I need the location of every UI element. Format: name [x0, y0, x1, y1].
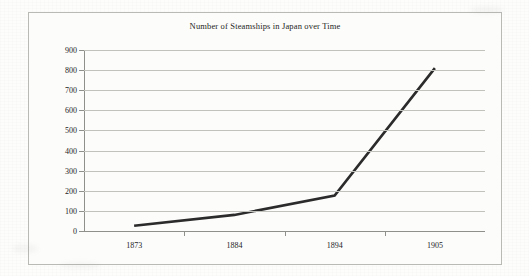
x-axis-label: 1894	[327, 241, 343, 250]
grid-line	[84, 211, 485, 212]
y-axis-tick	[79, 50, 84, 51]
grid-line	[84, 90, 485, 91]
y-axis-label: 800	[65, 66, 77, 75]
y-axis-label: 400	[65, 146, 77, 155]
y-axis-label: 900	[65, 46, 77, 55]
grid-line	[84, 151, 485, 152]
y-axis-tick	[79, 231, 84, 232]
y-axis-tick	[79, 130, 84, 131]
y-axis-tick	[79, 90, 84, 91]
x-axis-label: 1905	[427, 241, 443, 250]
y-axis-tick	[79, 211, 84, 212]
y-axis-label: 100	[65, 206, 77, 215]
x-axis-tick	[385, 231, 386, 236]
grid-line	[84, 110, 485, 111]
y-axis-label: 300	[65, 166, 77, 175]
y-axis-tick	[79, 110, 84, 111]
grid-line	[84, 171, 485, 172]
y-axis-tick	[79, 151, 84, 152]
y-axis-label: 600	[65, 106, 77, 115]
y-axis-tick	[79, 70, 84, 71]
x-axis-tick	[184, 231, 185, 236]
chart-frame: Number of Steamships in Japan over Time …	[28, 12, 502, 265]
y-axis-label: 500	[65, 126, 77, 135]
x-axis-label: 1873	[126, 241, 142, 250]
plot-area: 0100200300400500600700800900187318841894…	[84, 50, 485, 231]
y-axis-label: 0	[73, 227, 77, 236]
y-axis-label: 200	[65, 186, 77, 195]
chart-page: Number of Steamships in Japan over Time …	[0, 0, 529, 276]
grid-line	[84, 191, 485, 192]
y-axis-label: 700	[65, 86, 77, 95]
x-axis-tick	[285, 231, 286, 236]
series-line-chart	[84, 50, 485, 231]
grid-line	[84, 50, 485, 51]
grid-line	[84, 130, 485, 131]
grid-line	[84, 70, 485, 71]
series-polyline-steamships	[134, 68, 435, 226]
y-axis-tick	[79, 171, 84, 172]
y-axis-tick	[79, 191, 84, 192]
x-axis-label: 1884	[226, 241, 242, 250]
chart-title: Number of Steamships in Japan over Time	[29, 21, 501, 31]
